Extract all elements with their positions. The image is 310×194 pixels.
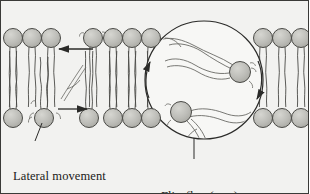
lateral-arrows — [58, 49, 93, 109]
lipid-head — [123, 109, 142, 128]
lipid-head — [142, 109, 161, 128]
lipid-head — [254, 29, 273, 48]
flip-flop-label-line1: Flip-flop (rare) — [161, 189, 238, 194]
lipid-head — [292, 109, 310, 128]
lipid-head-moving — [35, 109, 54, 128]
lipid-head — [84, 29, 103, 48]
lipid-head-rotating-1 — [230, 62, 251, 83]
lipid-head — [23, 29, 42, 48]
lateral-movement-label: Lateral movement (frequent) — [13, 141, 106, 194]
lipid-head — [4, 29, 23, 48]
flip-flop-circle-group — [145, 21, 263, 159]
lipid-head — [42, 29, 61, 48]
lipid-head — [123, 29, 142, 48]
lipid-head — [142, 29, 161, 48]
lipid-head — [292, 29, 310, 48]
lateral-movement-label-line1: Lateral movement — [13, 169, 106, 183]
lipid-head — [254, 109, 273, 128]
lipid-head-rotating-2 — [171, 102, 192, 123]
lipid-head — [104, 109, 123, 128]
lipid-head — [273, 109, 292, 128]
flip-flop-label: Flip-flop (rare) — [161, 161, 238, 194]
free-tail-sketch — [61, 65, 86, 101]
figure-panel: Lateral movement (frequent) Flip-flop (r… — [0, 0, 309, 194]
lipid-head — [273, 29, 292, 48]
lipid-head — [104, 29, 123, 48]
lipid-head — [4, 109, 23, 128]
tails-top-right — [259, 47, 304, 107]
bilayer-right-group — [259, 47, 304, 107]
lipid-head — [80, 109, 99, 128]
